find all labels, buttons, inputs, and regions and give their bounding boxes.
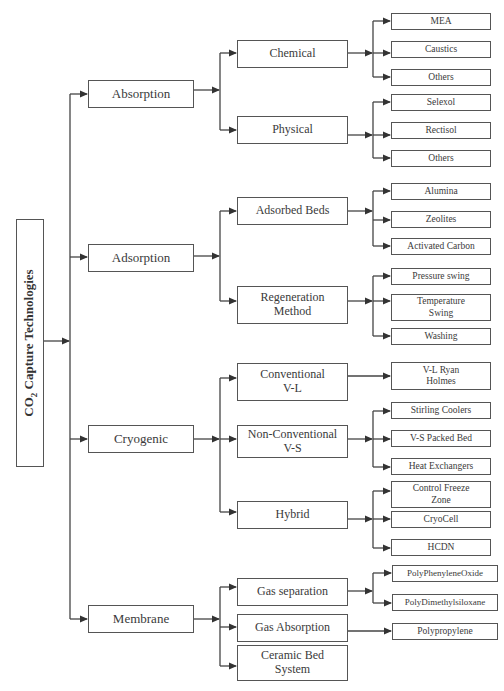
leaf-label: Polypropylene [417,626,472,637]
node-physical: Physical [237,116,348,144]
leaf-caustics: Caustics [391,41,491,58]
node-label: Conventional V-L [258,368,327,396]
leaf-hcdn: HCDN [391,539,491,556]
node-label: Chemical [270,47,316,61]
leaf-polyphenyleneoxide: PolyPhenyleneOxide [392,565,498,582]
node-label: Ceramic Bed System [256,649,329,677]
root-label-suffix: Capture Technologies [21,269,36,392]
node-absorption: Absorption [88,80,194,108]
node-regeneration-method: Regeneration Method [237,286,348,324]
leaf-label: Others [428,72,453,83]
leaf-label: V-L Ryan Holmes [416,365,466,388]
leaf-label: CryoCell [424,514,459,525]
node-conventional-v-l: Conventional V-L [237,363,348,401]
leaf-washing: Washing [391,328,491,345]
leaf-alumina: Alumina [391,183,491,200]
leaf-label: Stirling Coolers [411,405,471,416]
node-adsorbed-beds: Adsorbed Beds [237,197,348,225]
leaf-selexol: Selexol [391,94,491,111]
leaf-temperature-swing: Temperature Swing [391,294,491,321]
leaf-stirling-coolers: Stirling Coolers [391,402,491,419]
figure-caption-cropped [118,686,388,691]
node-ceramic-bed-system: Ceramic Bed System [237,645,348,681]
leaf-label: Control Freeze Zone [402,483,480,506]
node-label: Absorption [112,87,171,102]
leaf-label: Selexol [427,97,456,108]
leaf-label: Heat Exchangers [409,461,474,472]
node-adsorption: Adsorption [88,244,194,272]
node-membrane: Membrane [88,605,194,633]
leaf-cryocell: CryoCell [391,511,491,528]
leaf-label: Temperature Swing [412,296,470,319]
leaf-label: Zeolites [426,214,457,225]
leaf-control-freeze-zone: Control Freeze Zone [391,481,491,508]
leaf-v-s-packed-bed: V-S Packed Bed [391,430,491,447]
leaf-label: Others [428,153,453,164]
node-label: Hybrid [276,508,310,522]
leaf-label: Alumina [424,186,457,197]
node-label: Physical [272,123,313,137]
leaf-label: PolyPhenyleneOxide [407,568,483,579]
node-label: Cryogenic [114,432,168,447]
root-node-co2-capture-technologies: CO2 Capture Technologies [16,219,44,467]
leaf-label: HCDN [428,542,455,553]
leaf-pressure-swing: Pressure swing [391,268,491,285]
leaf-others-physical: Others [391,150,491,167]
leaf-label: Pressure swing [412,271,469,282]
leaf-activated-carbon: Activated Carbon [391,238,491,255]
node-cryogenic: Cryogenic [88,425,194,453]
leaf-polydimethylsiloxane: PolyDimethylsiloxane [392,594,498,611]
node-gas-separation: Gas separation [237,578,348,606]
leaf-others-chemical: Others [391,69,491,86]
leaf-rectisol: Rectisol [391,122,491,139]
leaf-label: PolyDimethylsiloxane [405,597,486,608]
leaf-label: Rectisol [425,125,456,136]
leaf-label: Activated Carbon [407,241,474,252]
node-label: Membrane [113,612,169,627]
leaf-label: V-S Packed Bed [410,433,472,444]
leaf-label: Washing [424,331,457,342]
node-label: Regeneration Method [252,291,333,319]
leaf-label: MEA [430,16,451,27]
node-label: Adsorption [112,251,171,266]
leaf-heat-exchangers: Heat Exchangers [391,458,491,475]
root-label: CO2 Capture Technologies [21,269,39,416]
leaf-polypropylene: Polypropylene [392,623,498,640]
leaf-v-l-ryan-holmes: V-L Ryan Holmes [391,362,491,390]
node-label: Adsorbed Beds [256,204,330,218]
node-chemical: Chemical [237,40,348,68]
leaf-mea: MEA [391,13,491,30]
root-label-subscript: 2 [29,393,39,398]
node-label: Non-Conventional V-S [242,428,343,456]
leaf-zeolites: Zeolites [391,211,491,228]
node-gas-absorption: Gas Absorption [237,614,348,642]
node-non-conventional-v-s: Non-Conventional V-S [237,425,348,458]
node-label: Gas Absorption [255,621,330,635]
leaf-label: Caustics [425,44,457,55]
node-label: Gas separation [257,585,328,599]
root-label-prefix: CO [21,397,36,417]
node-hybrid: Hybrid [237,501,348,529]
